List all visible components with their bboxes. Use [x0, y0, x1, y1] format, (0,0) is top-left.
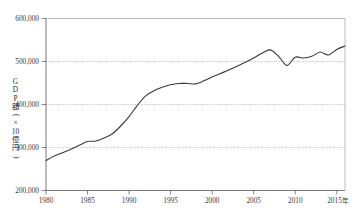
- x-tick-marks-group: [46, 191, 337, 195]
- gridlines-group: [46, 62, 345, 148]
- x-tick-label-2000: 2000: [205, 196, 220, 205]
- x-axis-unit-label: 年: [342, 196, 349, 205]
- y-tick-label-200000: 200,000: [15, 186, 39, 195]
- gdp-series-line: [46, 46, 345, 160]
- x-tick-label-1980: 1980: [39, 196, 54, 205]
- y-axis-label-char-9: ): [11, 148, 19, 165]
- x-tick-labels-group: 1980 1985 1990 1995 2000 2005 2010 2015 …: [39, 196, 349, 205]
- x-tick-label-2005: 2005: [246, 196, 261, 205]
- x-tick-label-1990: 1990: [122, 196, 137, 205]
- gdp-line-chart: 600,000 500,000 400,000 300,000 200,000 …: [0, 0, 357, 213]
- y-axis-label-char-4: (: [11, 107, 19, 124]
- x-tick-label-2015: 2015: [327, 196, 342, 205]
- chart-canvas: 600,000 500,000 400,000 300,000 200,000 …: [0, 0, 357, 213]
- x-tick-label-2010: 2010: [288, 196, 303, 205]
- x-tick-label-1985: 1985: [80, 196, 95, 205]
- y-axis-label: G D P 額 ( × 10 億 円 ): [7, 78, 24, 161]
- y-tick-label-600000: 600,000: [15, 14, 39, 23]
- x-tick-label-1995: 1995: [163, 196, 178, 205]
- y-tick-marks-group: [42, 19, 47, 191]
- y-tick-label-500000: 500,000: [15, 57, 39, 66]
